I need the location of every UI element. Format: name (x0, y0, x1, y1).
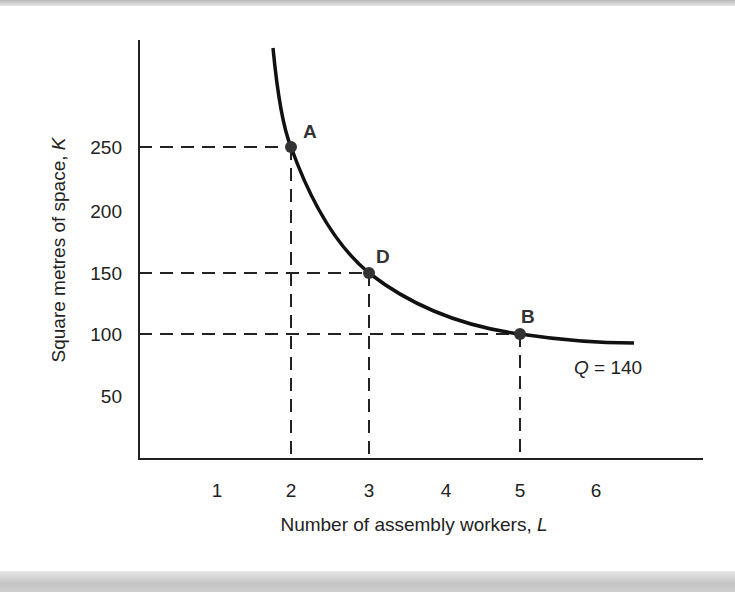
y-tick-200: 200 (90, 201, 122, 222)
curve-label: Q = 140 (574, 357, 642, 378)
x-tick-3: 3 (364, 480, 375, 501)
y-tick-250: 250 (90, 137, 122, 158)
isoquant-chart: A D B Q = 140 250 200 150 100 50 1 2 3 4… (0, 0, 735, 592)
curve-label-var: Q (574, 357, 589, 378)
y-tick-50: 50 (101, 386, 122, 407)
x-tick-5: 5 (515, 480, 526, 501)
point-a-marker (285, 141, 297, 153)
x-tick-4: 4 (441, 480, 452, 501)
isoquant-curve (273, 48, 634, 343)
reference-lines (139, 147, 520, 459)
curve-label-value: = 140 (589, 357, 642, 378)
data-points (285, 141, 526, 340)
x-axis-title: Number of assembly workers, L (280, 514, 547, 535)
point-d-marker (363, 267, 375, 279)
x-axis-title-var: L (537, 514, 548, 535)
point-a-label: A (303, 121, 317, 142)
y-axis-title-var: K (48, 136, 69, 150)
point-d-label: D (376, 246, 390, 267)
x-tick-labels: 1 2 3 4 5 6 (212, 480, 602, 501)
x-axis-title-text: Number of assembly workers, (280, 514, 537, 535)
y-axis-title-text: Square metres of space, (48, 150, 69, 362)
x-tick-2: 2 (286, 480, 297, 501)
x-tick-6: 6 (591, 480, 602, 501)
y-tick-150: 150 (90, 263, 122, 284)
point-b-marker (514, 328, 526, 340)
x-tick-1: 1 (212, 480, 223, 501)
y-axis-title: Square metres of space, K (48, 136, 69, 362)
y-tick-100: 100 (90, 324, 122, 345)
axes (138, 40, 703, 460)
y-tick-labels: 250 200 150 100 50 (90, 137, 122, 407)
point-b-label: B (521, 306, 535, 327)
